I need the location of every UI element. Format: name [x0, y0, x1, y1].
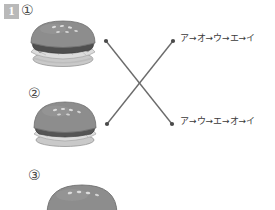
- connector-dot-bottom-left: [105, 122, 109, 126]
- line-item1-to-option-b: [106, 41, 172, 124]
- hamburger-photo-2: [28, 97, 102, 151]
- hamburger-photo-3: [42, 180, 122, 210]
- connector-dot-top-left: [104, 39, 108, 43]
- worksheet-page: 1 ① ② ③: [0, 0, 275, 210]
- connector-dot-bottom-right: [170, 122, 174, 126]
- line-item2-to-option-a: [107, 41, 173, 124]
- answer-option-a[interactable]: ア→オ→ウ→エ→イ: [180, 31, 255, 44]
- connector-dot-top-right: [171, 39, 175, 43]
- answer-option-b[interactable]: ア→ウ→エ→オ→イ: [180, 114, 255, 127]
- item-marker-3: ③: [28, 168, 41, 182]
- hamburger-photo-1: [26, 14, 100, 72]
- question-number-badge: 1: [4, 4, 19, 19]
